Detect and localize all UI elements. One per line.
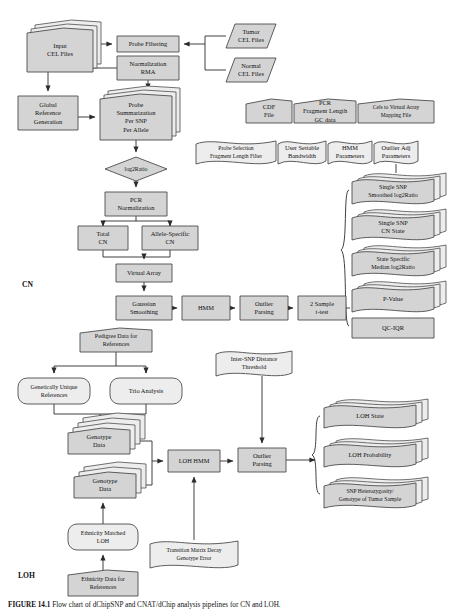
node-label-cdf-file: CDFFile — [263, 103, 276, 118]
edge-normal-to-probe-filtering — [184, 44, 226, 70]
edge-tumor-to-probe-filtering — [205, 36, 226, 44]
edge-pedigree-down — [54, 352, 146, 373]
node-label-outlier-adj-parameters: Outlier AdjParameters — [382, 144, 411, 159]
node-shape-ethnicity-data-for-references — [68, 570, 138, 596]
node-label-single-snp-cn-state: Single SNPCN State — [378, 219, 408, 234]
edge-loh-results-bus — [312, 416, 320, 494]
node-label-outlier-parsing-loh: OutlierParsing — [252, 452, 272, 467]
node-label-virtual-array: Virtual Array — [127, 269, 162, 276]
node-genetically-unique-references — [18, 378, 90, 404]
flowchart-canvas: InputCEL FilesProbe FilteringTumorCEL Fi… — [0, 0, 456, 615]
node-label-state-specific-median-log2ratio: State SpecificMedian log2Ratio — [371, 256, 415, 270]
node-label-loh-state: LOH State — [356, 412, 384, 419]
node-label-loh-hmm: LOH HMM — [179, 457, 210, 464]
node-label-trio-analysis: Trio Analysis — [129, 387, 164, 394]
node-label-log2ratio: log2Ratio — [125, 166, 148, 172]
section-label-layer: CNLOH — [18, 280, 35, 580]
edge-cn-merge-to-virtual-array — [103, 250, 170, 259]
section-label-cn: CN — [22, 280, 33, 289]
node-label-hmm: HMM — [198, 304, 214, 311]
node-label-probe-filtering: Probe Filtering — [129, 40, 168, 47]
node-ethnicity-matched-loh — [68, 524, 138, 550]
node-shape-ethnicity-matched-loh — [68, 524, 138, 550]
caption-text: Flow chart of dChipSNP and CNAT/dChip an… — [52, 601, 281, 609]
node-label-outlier-parsing-cn: OutlierParsing — [254, 300, 274, 315]
node-ethnicity-data-for-references — [68, 570, 138, 596]
caption-label: FIGURE 14.1 — [8, 601, 50, 609]
section-label-loh: LOH — [18, 571, 35, 580]
node-pedigree-data-for-references — [80, 328, 152, 352]
figure-caption: FIGURE 14.1 Flow chart of dChipSNP and C… — [8, 601, 450, 615]
node-label-loh-probability: LOH Probability — [348, 451, 392, 458]
node-label-gaussian-smoothing: GaussianSmoothing — [130, 300, 159, 315]
node-label-p-value: P-Value — [383, 295, 403, 302]
node-label-qc-iqr: QC-IQR — [382, 324, 405, 331]
node-label-normal-cel-files: NormalCEL Files — [238, 62, 264, 77]
node-shape-pedigree-data-for-references — [80, 328, 152, 352]
node-label-user-settable-bandwidth: User SettableBandwidth — [285, 144, 319, 159]
node-label-snp-heterozygosity: SNP Heterozygosity/Genotype of Tumor Sam… — [339, 488, 402, 502]
edge-pcr-norm-split — [103, 216, 170, 226]
node-shape-genetically-unique-references — [18, 378, 90, 404]
